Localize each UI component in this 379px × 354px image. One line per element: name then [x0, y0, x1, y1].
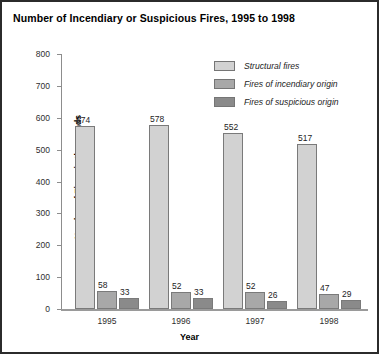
y-axis-line	[61, 54, 62, 311]
bar: 52	[245, 292, 265, 309]
y-axis-tick-label: 200	[36, 240, 50, 250]
chart-title: Number of Incendiary or Suspicious Fires…	[13, 12, 295, 24]
bar-value-label: 52	[246, 281, 255, 291]
legend-item: Fires of incendiary origin	[214, 76, 339, 91]
x-axis-tick-label: 1995	[98, 316, 117, 326]
x-axis-tick-label: 1996	[172, 316, 191, 326]
bar: 578	[149, 125, 169, 309]
bar: 33	[193, 298, 213, 309]
legend-item: Fires of suspicious origin	[214, 94, 339, 109]
y-axis-tick-label: 300	[36, 208, 50, 218]
legend-swatch	[214, 97, 235, 107]
y-axis-tick-label: 500	[36, 145, 50, 155]
bar-value-label: 58	[98, 280, 107, 290]
y-axis-tick-label: 400	[36, 177, 50, 187]
bar-value-label: 578	[150, 114, 164, 124]
y-axis-tick: 200	[57, 245, 61, 246]
y-axis-tick: 100	[57, 277, 61, 278]
bar-value-label: 29	[342, 289, 351, 299]
y-axis-tick: 600	[57, 118, 61, 119]
bar-value-label: 33	[120, 287, 129, 297]
y-axis-tick: 500	[57, 150, 61, 151]
y-axis-tick-label: 800	[36, 49, 50, 59]
legend-swatch	[214, 79, 235, 89]
bar-value-label: 33	[194, 287, 203, 297]
y-axis-tick: 300	[57, 213, 61, 214]
bar: 33	[119, 298, 139, 309]
bar: 517	[297, 144, 317, 309]
y-axis-tick: 400	[57, 182, 61, 183]
bar-value-label: 517	[298, 133, 312, 143]
bar-value-label: 574	[76, 115, 90, 125]
bar: 552	[223, 133, 243, 309]
bar-value-label: 47	[320, 283, 329, 293]
bar-value-label: 552	[224, 122, 238, 132]
chart-legend: Structural firesFires of incendiary orig…	[214, 58, 339, 112]
bar-value-label: 26	[268, 290, 277, 300]
y-axis-tick: 700	[57, 86, 61, 87]
legend-item: Structural fires	[214, 58, 339, 73]
y-axis-tick-label: 600	[36, 113, 50, 123]
x-axis-title: Year	[2, 332, 377, 342]
legend-label: Fires of incendiary origin	[244, 79, 338, 89]
bar: 26	[267, 301, 287, 309]
x-axis-tick-label: 1997	[246, 316, 265, 326]
legend-label: Structural fires	[244, 61, 299, 71]
bar: 574	[75, 126, 95, 309]
bar: 52	[171, 292, 191, 309]
bar: 29	[341, 300, 361, 309]
y-axis-tick-label: 0	[45, 304, 50, 314]
y-axis-tick: 800	[57, 54, 61, 55]
x-axis-line	[61, 309, 368, 311]
bar: 58	[97, 291, 117, 309]
legend-label: Fires of suspicious origin	[244, 97, 339, 107]
chart-figure: Number of Incendiary or Suspicious Fires…	[0, 0, 379, 354]
y-axis-tick: 0	[57, 309, 61, 310]
y-axis-tick-label: 100	[36, 272, 50, 282]
bar-value-label: 52	[172, 281, 181, 291]
bar: 47	[319, 294, 339, 309]
legend-swatch	[214, 61, 235, 71]
y-axis-tick-label: 700	[36, 81, 50, 91]
x-axis-tick-label: 1998	[320, 316, 339, 326]
